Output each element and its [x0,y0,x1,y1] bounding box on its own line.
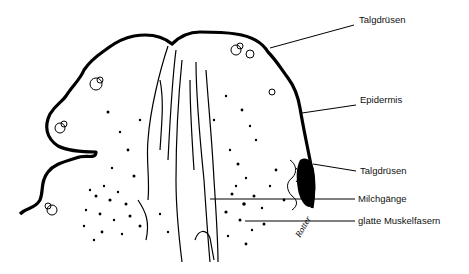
stippling [83,95,286,246]
nipple-cross-section-illustration: Rotter [0,0,469,274]
label-glatte-muskelfasern: glatte Muskelfasern [358,216,440,226]
label-epidermis: Epidermis [360,95,402,105]
label-talgdruesen-top: Talgdrüsen [359,15,405,25]
artist-signature: Rotter [293,214,314,240]
label-talgdruesen-bottom: Talgdrüsen [360,166,406,176]
milk-ducts [138,46,218,262]
leader-lines [210,25,356,221]
label-milchgaenge: Milchgänge [358,194,407,204]
gland-mass-right [297,158,316,206]
